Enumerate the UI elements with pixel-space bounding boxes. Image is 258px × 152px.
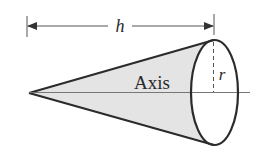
axis-label: Axis xyxy=(134,72,170,93)
height-dimension: h xyxy=(27,14,214,37)
height-label: h xyxy=(116,16,125,36)
radius-label: r xyxy=(219,65,226,84)
cone-diagram: h Axis r xyxy=(0,0,258,152)
